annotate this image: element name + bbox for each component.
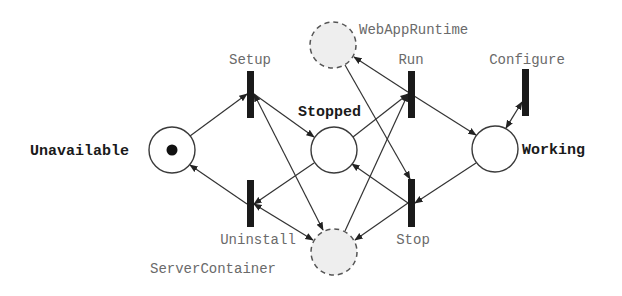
place-label-stopped: Stopped [298,104,361,121]
place-label-webappruntime: WebAppRuntime [359,22,468,38]
arc [415,163,476,203]
transition-uninstall [247,180,254,227]
arc [411,94,476,135]
arc [254,163,314,204]
transition-label-uninstall: Uninstall [220,232,296,248]
transition-stop [408,179,415,227]
transition-label-run: Run [398,52,423,68]
place-label-working: Working [522,142,585,159]
transition-configure [522,69,529,116]
place-stopped [311,127,357,173]
transition-label-configure: Configure [489,52,565,68]
token-icon [167,145,178,156]
arc [190,94,247,136]
arc [345,65,410,179]
petri-net-diagram: UnavailableStoppedWorkingWebAppRuntimeSe… [0,0,622,296]
transition-setup [247,71,254,118]
places-layer [149,22,518,275]
transition-label-stop: Stop [396,232,430,248]
place-webappruntime [310,22,356,68]
arc [506,102,522,128]
transition-label-setup: Setup [229,52,271,68]
place-working [472,126,518,172]
arc [353,94,408,137]
transition-run [408,71,415,118]
arc [190,165,247,204]
place-servercontainer [311,229,357,275]
place-label-servercontainer: ServerContainer [150,261,276,277]
place-label-unavailable: Unavailable [30,143,129,160]
